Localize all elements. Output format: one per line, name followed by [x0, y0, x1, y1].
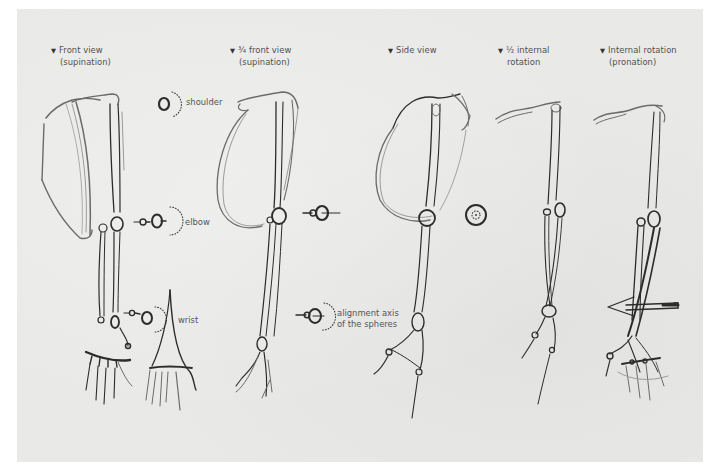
- arm-sketch-internal-rotation: [594, 105, 678, 400]
- elbow-joint-diagram-icon: [134, 207, 183, 235]
- wrist-joint-diagram-icon: [124, 307, 166, 332]
- arm-sketch-front-view: [42, 94, 132, 404]
- arm-sketch-side-view: [374, 94, 470, 418]
- alignment-axis-diagram-icon: [296, 303, 335, 330]
- arm-skeleton-sketches: [0, 0, 711, 469]
- wrist-side-sketch: [146, 290, 196, 410]
- arm-sketch-three-quarter-view: [217, 92, 298, 398]
- shoulder-joint-diagram-icon: [159, 92, 181, 117]
- arm-sketch-half-internal-rotation: [496, 102, 565, 404]
- three-quarter-elbow-diagram-icon: [303, 206, 340, 220]
- side-view-sphere-diagram-icon: [466, 205, 486, 225]
